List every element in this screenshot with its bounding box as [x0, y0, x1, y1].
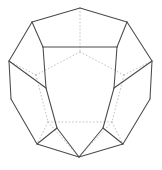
dodecahedron-wireframe	[0, 0, 162, 170]
figure-canvas	[0, 0, 162, 170]
